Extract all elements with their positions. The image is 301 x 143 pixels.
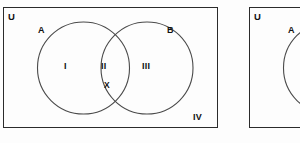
universe-label: U	[8, 12, 15, 22]
venn-circles	[0, 0, 222, 134]
universe-label-partial: U	[254, 12, 261, 22]
circle-set-a-partial	[284, 22, 301, 114]
region-label-ii: II	[101, 62, 106, 71]
venn-diagram-complete: U A B I II III IV X	[0, 0, 222, 134]
region-label-i: I	[64, 62, 67, 71]
circle-set-a	[38, 22, 130, 114]
region-label-iv: IV	[193, 113, 202, 122]
set-label-a: A	[38, 26, 45, 35]
diagram-canvas: U A B I II III IV X U A	[0, 0, 300, 143]
element-label-x: X	[104, 81, 110, 90]
region-label-iii: III	[142, 62, 150, 71]
set-label-a-partial: A	[288, 26, 295, 35]
venn-diagram-partial: U A	[246, 0, 300, 143]
set-label-b: B	[167, 26, 174, 35]
